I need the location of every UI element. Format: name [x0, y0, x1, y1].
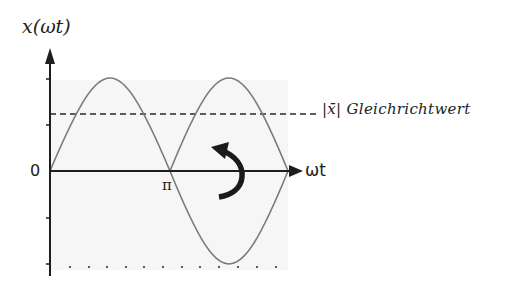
y-axis-arrowhead-icon	[45, 48, 55, 64]
x-axis-arrowhead-icon	[289, 165, 303, 177]
rectification-diagram: x(ωt) 0 π ωt |x̄| Gleichrichtwert	[0, 0, 522, 283]
origin-label: 0	[30, 161, 40, 180]
plot-background	[50, 80, 288, 270]
pi-tick-label: π	[162, 176, 172, 194]
x-axis-label: ωt	[305, 160, 326, 180]
gleichrichtwert-label: |x̄| Gleichrichtwert	[322, 100, 471, 118]
diagram-canvas	[0, 0, 522, 283]
y-axis-label: x(ωt)	[22, 15, 71, 37]
